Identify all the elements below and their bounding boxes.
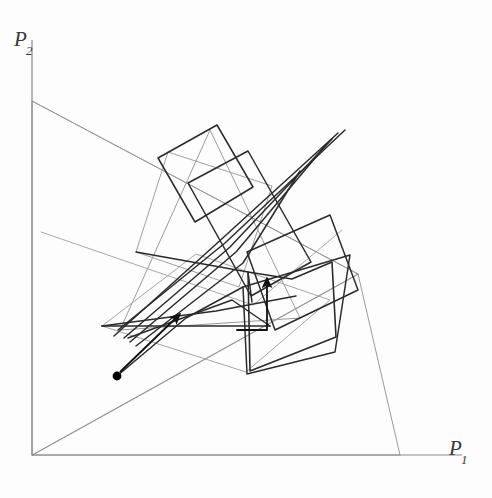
simplex-square-mid — [188, 151, 311, 296]
x-axis-label: P — [448, 436, 462, 460]
x-axis-label-subscript: 1 — [461, 452, 468, 467]
parameter-space-plot: P 1 P 2 — [0, 0, 492, 498]
axes-layer — [32, 40, 462, 455]
figure-root: P 1 P 2 — [0, 0, 492, 498]
y-axis-label-subscript: 2 — [26, 43, 33, 58]
feasible-region-layer — [32, 101, 400, 455]
start-marker — [113, 372, 122, 381]
search-path-layer — [102, 130, 345, 376]
simplex-lower-quad — [243, 255, 350, 374]
ray-upper — [32, 101, 358, 274]
y-axis-label: P — [13, 27, 27, 51]
light-polygon-layer — [41, 130, 342, 372]
ray-to-xaxis — [358, 274, 400, 455]
dark-polygon-layer — [158, 125, 358, 374]
